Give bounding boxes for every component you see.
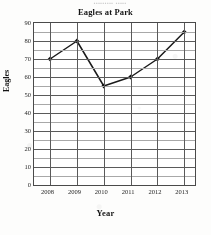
y-axis-tick-label: 90: [25, 20, 32, 27]
gridline-minor: [34, 122, 195, 123]
gridline-major: [34, 149, 195, 150]
gridline-minor: [34, 68, 195, 69]
x-axis-tick-label: 2011: [122, 189, 135, 196]
gridline-major: [34, 41, 195, 42]
gridline-vertical: [104, 23, 105, 185]
y-axis-tick-label: 60: [25, 74, 32, 81]
x-axis-title: Year: [0, 208, 211, 218]
y-axis-tick-label: 0: [28, 182, 31, 189]
gridline-major: [34, 113, 195, 114]
gridline-minor: [34, 158, 195, 159]
gridline-minor: [34, 176, 195, 177]
gridline-minor: [34, 140, 195, 141]
gridline-vertical: [157, 23, 158, 185]
gridline-major: [34, 95, 195, 96]
y-axis-tick-label: 10: [25, 164, 32, 171]
gridline-major: [34, 167, 195, 168]
chart-figure: ......... ..... Eagles at Park Eagles 01…: [0, 0, 211, 235]
x-axis-tick-label: 2012: [148, 189, 161, 196]
gridline-major: [34, 59, 195, 60]
x-axis-tick-label: 2013: [175, 189, 188, 196]
chart-title: Eagles at Park: [0, 7, 211, 17]
y-axis-tick-label: 40: [25, 110, 32, 117]
gridline-major: [34, 77, 195, 78]
y-axis-title: Eagles: [2, 70, 11, 92]
x-axis-tick-label: 2010: [95, 189, 108, 196]
gridline-vertical: [131, 23, 132, 185]
x-axis-tick-label: 2008: [41, 189, 54, 196]
clipped-header-text: ......... .....: [62, 0, 158, 6]
y-axis-tick-label: 70: [25, 56, 32, 63]
gridline-vertical: [184, 23, 185, 185]
y-axis-tick-label: 50: [25, 92, 32, 99]
y-axis-tick-label: 30: [25, 128, 32, 135]
gridline-minor: [34, 104, 195, 105]
gridline-minor: [34, 86, 195, 87]
gridline-major: [34, 131, 195, 132]
y-axis-tick-label: 80: [25, 38, 32, 45]
gridline-vertical: [50, 23, 51, 185]
plot-area: 0102030405060708090200820092010201120122…: [33, 22, 196, 186]
gridline-minor: [34, 50, 195, 51]
y-axis-tick-label: 20: [25, 146, 32, 153]
gridline-minor: [34, 32, 195, 33]
gridline-vertical: [77, 23, 78, 185]
x-axis-tick-label: 2009: [68, 189, 81, 196]
